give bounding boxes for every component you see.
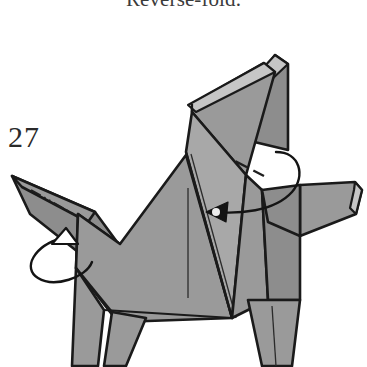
- hindleg: [248, 300, 300, 366]
- foreleg-back: [104, 312, 146, 366]
- origami-figure: .paper { fill: #9a9a9a; stroke: #1a1a1a;…: [0, 0, 367, 367]
- highlight-dot: [212, 208, 220, 216]
- diagram-page: Reverse-fold. 27 .paper { fill: #9a9a9a;…: [0, 0, 367, 367]
